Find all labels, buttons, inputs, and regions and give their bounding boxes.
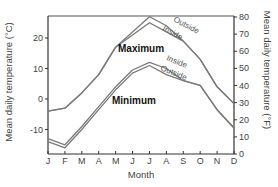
y-tick-label-right: 20 bbox=[239, 115, 249, 125]
x-tick-label: A bbox=[96, 156, 102, 166]
y-tick-label-right: 50 bbox=[239, 63, 249, 73]
axis-ticks: 20100-1080706050403020100JFMAMJJASOND bbox=[30, 12, 249, 166]
series-lines bbox=[48, 17, 234, 148]
x-tick-label: S bbox=[180, 156, 186, 166]
x-tick-label: A bbox=[163, 156, 169, 166]
y-tick-label-right: 80 bbox=[239, 12, 249, 22]
y-tick-label-left: 20 bbox=[33, 33, 43, 43]
group-label-minimum: Minimum bbox=[112, 95, 156, 106]
group-label-maximum: Maximum bbox=[118, 43, 164, 54]
series-line-minimum-outside bbox=[48, 66, 234, 148]
x-tick-label: J bbox=[147, 156, 152, 166]
x-tick-label: M bbox=[112, 156, 120, 166]
y-tick-label-right: 40 bbox=[239, 81, 249, 91]
y-tick-label-left: -10 bbox=[30, 125, 43, 135]
x-tick-label: F bbox=[62, 156, 68, 166]
x-axis-title: Month bbox=[128, 169, 154, 180]
y-tick-label-right: 10 bbox=[239, 132, 249, 142]
y-tick-label-right: 60 bbox=[239, 46, 249, 56]
y-tick-label-right: 0 bbox=[239, 149, 244, 159]
y-tick-label-right: 70 bbox=[239, 29, 249, 39]
x-tick-label: O bbox=[197, 156, 204, 166]
y-tick-label-right: 30 bbox=[239, 98, 249, 108]
x-tick-label: D bbox=[231, 156, 238, 166]
x-tick-label: N bbox=[214, 156, 221, 166]
x-tick-label: J bbox=[46, 156, 51, 166]
y-tick-label-left: 0 bbox=[38, 94, 43, 104]
x-tick-label: J bbox=[130, 156, 135, 166]
y-axis-left-title: Mean daily temperature (°C) bbox=[3, 22, 14, 141]
temperature-chart: 20100-1080706050403020100JFMAMJJASOND Ma… bbox=[0, 0, 278, 187]
x-tick-label: M bbox=[78, 156, 86, 166]
y-axis-right-title: Mean daily temperature (°F) bbox=[262, 11, 273, 129]
y-tick-label-left: 10 bbox=[33, 64, 43, 74]
series-labels: MaximumMinimumOutsideInsideInsideOutside bbox=[112, 15, 201, 106]
